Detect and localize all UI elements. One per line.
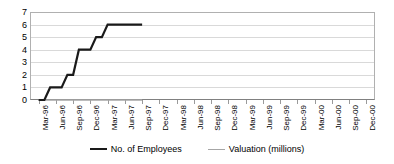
legend-label: No. of Employees	[111, 144, 182, 154]
gridline	[31, 75, 374, 76]
y-axis-tick-label: 6	[3, 21, 27, 30]
x-axis-tick-label: Sep-99	[283, 105, 291, 131]
x-axis-tick-label: Dec-00	[369, 105, 377, 131]
x-axis-tick-label: Dec-98	[231, 105, 239, 131]
x-axis-tick-label: Mar-99	[249, 105, 257, 130]
gridline	[31, 25, 374, 26]
y-axis-tick-label: 7	[3, 8, 27, 17]
x-axis-tick-label: Jun-96	[59, 105, 67, 129]
x-axis-tick-label: Jun-00	[335, 105, 343, 129]
y-axis: 01234567	[0, 12, 27, 100]
x-axis-tick-label: Dec-99	[300, 105, 308, 131]
y-axis-tick-label: 4	[3, 46, 27, 55]
line-chart: 01234567 Mar-96Jun-96Sep-96Dec-96Mar-97J…	[0, 0, 394, 164]
x-axis-tick-label: Sep-97	[145, 105, 153, 131]
x-axis-tick-label: Mar-00	[318, 105, 326, 130]
legend-item[interactable]: No. of Employees	[90, 144, 182, 154]
legend-item[interactable]: Valuation (millions)	[208, 144, 304, 154]
y-axis-tick-label: 2	[3, 71, 27, 80]
gridline	[31, 50, 374, 51]
x-axis-tick-label: Sep-98	[214, 105, 222, 131]
gridline	[31, 87, 374, 88]
y-axis-tick-label: 1	[3, 83, 27, 92]
y-axis-tick-label: 5	[3, 33, 27, 42]
x-axis-tick-label: Mar-98	[180, 105, 188, 130]
gridline	[31, 37, 374, 38]
x-axis-tick-label: Jun-97	[128, 105, 136, 129]
legend-line-swatch	[208, 149, 225, 150]
x-axis: Mar-96Jun-96Sep-96Dec-96Mar-97Jun-97Sep-…	[0, 104, 394, 144]
x-axis-tick-label: Mar-96	[42, 105, 50, 130]
chart-legend: No. of EmployeesValuation (millions)	[0, 144, 394, 154]
x-axis-tick-label: Jun-99	[266, 105, 274, 129]
x-axis-tick-label: Dec-97	[162, 105, 170, 131]
x-axis-tick-label: Mar-97	[111, 105, 119, 130]
legend-label: Valuation (millions)	[229, 144, 304, 154]
x-axis-tick-label: Sep-96	[76, 105, 84, 131]
legend-line-swatch	[90, 148, 107, 150]
gridline	[31, 62, 374, 63]
y-axis-tick-label: 3	[3, 58, 27, 67]
x-axis-tick-label: Jun-98	[197, 105, 205, 129]
x-axis-tick-label: Sep-00	[352, 105, 360, 131]
x-axis-tick-label: Dec-96	[93, 105, 101, 131]
plot-area	[30, 12, 375, 100]
